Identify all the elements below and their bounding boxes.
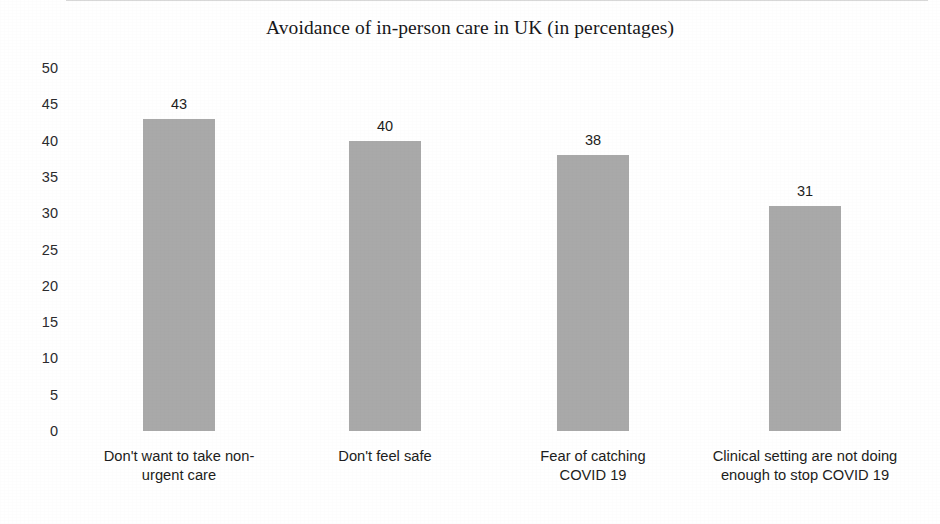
y-axis-tick-label: 30 (0, 206, 58, 221)
bar-value-label: 31 (797, 183, 813, 198)
plot-area: 50454035302520151050 43403831 Don't want… (0, 0, 940, 524)
x-axis-category-label-line: Clinical setting are not doing (690, 447, 920, 466)
x-axis-category-label: Fear of catchingCOVID 19 (493, 447, 693, 485)
y-axis-tick-label: 5 (0, 387, 58, 402)
bar-value-label: 38 (585, 133, 601, 148)
x-axis-category-label: Clinical setting are not doingenough to … (690, 447, 920, 485)
x-axis-category-label-line: Don't feel safe (285, 447, 485, 466)
bar-value-label: 40 (377, 118, 393, 133)
x-axis-category-label: Don't want to take non-urgent care (79, 447, 279, 485)
y-axis-tick-label: 10 (0, 351, 58, 366)
y-axis-tick-label: 45 (0, 97, 58, 112)
y-axis-tick-label: 35 (0, 170, 58, 185)
y-axis-tick-label: 50 (0, 61, 58, 76)
bar (349, 141, 421, 431)
x-axis-category-label: Don't feel safe (285, 447, 485, 466)
y-axis-tick-label: 15 (0, 315, 58, 330)
chart-screenshot: Avoidance of in-person care in UK (in pe… (0, 0, 940, 524)
x-axis-category-label-line: Don't want to take non- (79, 447, 279, 466)
bar-value-label: 43 (171, 96, 187, 111)
y-axis-tick-label: 0 (0, 424, 58, 439)
y-axis-tick-label: 20 (0, 279, 58, 294)
axis-baseline-rule (66, 0, 928, 1)
x-axis-category-label-line: COVID 19 (493, 466, 693, 485)
x-axis-category-label-line: urgent care (79, 466, 279, 485)
bar (769, 206, 841, 431)
y-axis-tick-label: 40 (0, 133, 58, 148)
x-axis-category-label-line: enough to stop COVID 19 (690, 466, 920, 485)
x-axis-category-label-line: Fear of catching (493, 447, 693, 466)
y-axis-tick-label: 25 (0, 242, 58, 257)
bar (557, 155, 629, 431)
bar (143, 119, 215, 431)
